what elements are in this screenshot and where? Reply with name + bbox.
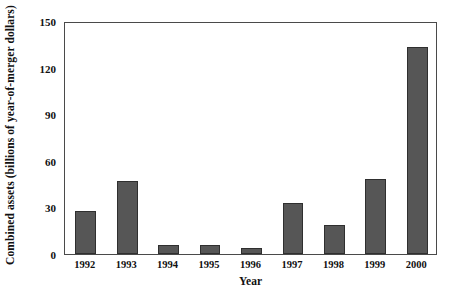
- x-tick-label-2000: 2000: [406, 259, 427, 270]
- bar-1993: [117, 181, 138, 254]
- bar-2000: [407, 47, 428, 254]
- bar-1994: [158, 245, 179, 254]
- plot-area: [64, 22, 437, 255]
- y-tick-label-90: 90: [26, 110, 56, 121]
- bars-layer: [65, 23, 436, 254]
- x-axis-title: Year: [64, 275, 437, 287]
- x-tick-label-1999: 1999: [364, 259, 385, 270]
- bar-1997: [283, 203, 304, 254]
- bar-1996: [241, 248, 262, 254]
- y-tick-label-0: 0: [26, 250, 56, 261]
- bar-chart-figure: Combined assets (billions of year-of-mer…: [0, 0, 462, 301]
- y-axis-title: Combined assets (billions of year-of-mer…: [0, 0, 20, 270]
- x-tick-label-1995: 1995: [199, 259, 220, 270]
- y-axis-tick-labels: 0 30 60 90 120 150: [26, 0, 56, 301]
- bar-1998: [324, 225, 345, 255]
- y-tick-label-30: 30: [26, 203, 56, 214]
- x-axis-tick-labels: 1992 1993 1994 1995 1996 1997 1998 1999 …: [64, 259, 437, 275]
- bar-1995: [200, 245, 221, 254]
- x-tick-label-1998: 1998: [323, 259, 344, 270]
- y-tick-label-60: 60: [26, 157, 56, 168]
- x-tick-label-1994: 1994: [157, 259, 178, 270]
- x-tick-label-1992: 1992: [74, 259, 95, 270]
- x-tick-label-1993: 1993: [116, 259, 137, 270]
- y-tick-label-120: 120: [26, 64, 56, 75]
- x-tick-label-1996: 1996: [240, 259, 261, 270]
- y-tick-label-150: 150: [26, 17, 56, 28]
- bar-1992: [75, 211, 96, 254]
- y-axis-title-text: Combined assets (billions of year-of-mer…: [4, 5, 16, 265]
- x-tick-label-1997: 1997: [281, 259, 302, 270]
- bar-1999: [365, 179, 386, 254]
